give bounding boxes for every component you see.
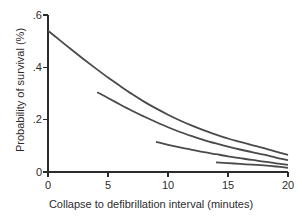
- xtick-label-0: 0: [34, 180, 62, 191]
- xtick-label-2: 10: [154, 180, 182, 191]
- series-line-curve-1: [48, 31, 288, 155]
- data-series: [48, 31, 288, 168]
- xtick-label-3: 15: [214, 180, 242, 191]
- survival-probability-chart: 0 .2 .4 .6 0 5 10 15 20 Probability of s…: [0, 0, 302, 222]
- xtick-label-1: 5: [94, 180, 122, 191]
- xtick-label-4: 20: [274, 180, 302, 191]
- y-axis-title: Probability of survival (%): [14, 4, 26, 176]
- axes: [48, 15, 288, 172]
- x-axis-title: Collapse to defibrillation interval (min…: [0, 198, 302, 210]
